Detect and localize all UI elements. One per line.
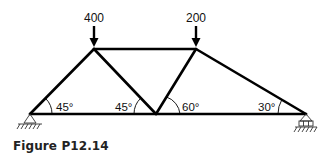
figure-caption: Figure P12.14 [13, 139, 109, 153]
angle-arc-right-support [278, 100, 282, 114]
pin-support-icon [17, 114, 42, 129]
arrow-down-icon [192, 38, 201, 47]
member-right-diagonal [196, 49, 306, 114]
angle-arc-mid-left [134, 98, 141, 114]
arrow-down-icon [90, 38, 99, 47]
angle-label-mid-left: 45° [115, 101, 132, 113]
angle-arc-left-support [46, 98, 52, 114]
angle-arc-mid-right [167, 97, 181, 114]
angle-label-mid-right: 60° [182, 101, 199, 113]
load-arrow-400 [90, 26, 99, 47]
load-arrow-200 [192, 26, 201, 47]
angle-label-right-support: 30° [258, 101, 275, 113]
load-label-200: 200 [186, 11, 206, 25]
load-label-400: 400 [84, 11, 104, 25]
roller-support-icon [294, 114, 317, 132]
angle-label-left-support: 45° [56, 101, 73, 113]
figure-canvas: 45° 45° 60° 30° 400 200 [0, 0, 335, 165]
